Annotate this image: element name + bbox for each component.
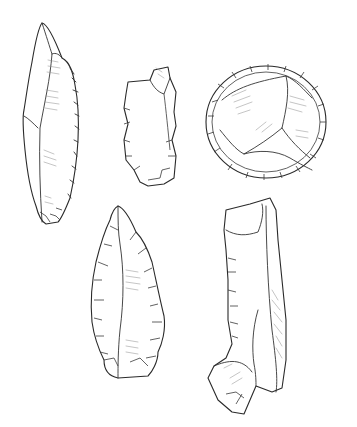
stone-tools-illustration xyxy=(0,0,357,427)
retouched-point-drawing xyxy=(91,206,164,378)
discoidal-scraper-drawing xyxy=(206,64,326,180)
elongated-blade-tool-drawing xyxy=(208,198,286,414)
flake-fragment-drawing xyxy=(124,67,176,186)
blade-point-drawing xyxy=(23,23,79,224)
